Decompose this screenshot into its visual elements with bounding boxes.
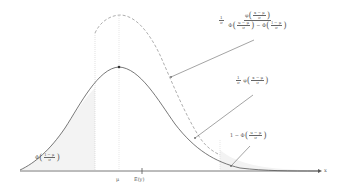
truncated-label-leader (171, 40, 254, 77)
normal-density-label: 1σ φ(x − μσ) (235, 76, 269, 85)
normal-leader-dot (194, 137, 196, 139)
truncated-density-curve (95, 15, 220, 155)
upper-tail-label: 1 − Φ(u − μσ) (230, 131, 267, 140)
ey-tick-label: E(y) (134, 176, 144, 182)
x-axis-label: x (324, 167, 327, 173)
lower-tail-label: Φ(l − μσ) (35, 153, 60, 162)
truncated-normal-diagram (0, 0, 340, 192)
x-axis-arrow-icon (318, 169, 322, 173)
truncated-leader-dot (170, 76, 172, 78)
truncated-density-label: 1σ φ(x − μσ) Φ(u − μσ) − Φ(l − μσ) (218, 11, 289, 30)
peak-point (118, 66, 121, 69)
mu-tick-label: μ (116, 176, 119, 182)
upper-tail-shade (220, 150, 300, 170)
upper-tail-leader-dot (230, 165, 232, 167)
